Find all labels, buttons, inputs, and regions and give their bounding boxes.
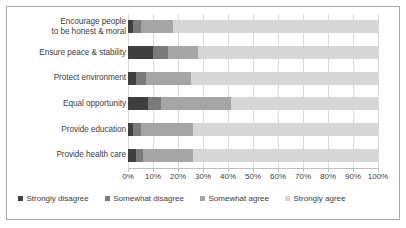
bar-segment	[136, 72, 146, 85]
legend-item: Somewhat disagree	[105, 194, 184, 203]
y-axis-label: Equal opportunity	[8, 99, 126, 109]
y-axis-label: Provide health care	[8, 150, 126, 160]
bar-segment	[193, 149, 378, 162]
gridline-0	[128, 14, 129, 168]
chart-container: Encourage peopleto be honest & moralEnsu…	[0, 0, 406, 228]
bar-segment	[193, 123, 378, 136]
gridline-50	[253, 14, 254, 168]
bar-segment	[141, 20, 174, 33]
y-axis-label: Protect environment	[8, 73, 126, 83]
bar-segment	[128, 46, 153, 59]
y-axis-label: Ensure peace & stability	[8, 48, 126, 58]
gridline-80	[328, 14, 329, 168]
x-tick-label-10: 10%	[145, 172, 161, 181]
x-tick-label-50: 50%	[245, 172, 261, 181]
bar-segment	[146, 72, 191, 85]
legend-item: Somewhat agree	[200, 194, 269, 203]
bar-segment	[136, 149, 144, 162]
bar-row	[128, 72, 378, 85]
y-axis-category-labels: Encourage peopleto be honest & moralEnsu…	[6, 14, 126, 168]
bar-segment	[198, 46, 378, 59]
legend-swatch-icon	[285, 196, 290, 201]
legend-item: Strongly disagree	[18, 194, 89, 203]
plot-area	[128, 14, 378, 168]
gridline-40	[228, 14, 229, 168]
bar-segment	[143, 149, 193, 162]
gridline-60	[278, 14, 279, 168]
x-tick-label-40: 40%	[220, 172, 236, 181]
gridline-10	[153, 14, 154, 168]
bar-segment	[141, 123, 194, 136]
legend-label: Somewhat agree	[208, 194, 268, 203]
x-tick-label-90: 90%	[345, 172, 361, 181]
x-tick-label-100: 100%	[368, 172, 388, 181]
bar-row	[128, 20, 378, 33]
gridline-70	[303, 14, 304, 168]
x-tick-label-30: 30%	[195, 172, 211, 181]
y-axis-label: Provide education	[8, 125, 126, 135]
gridline-20	[178, 14, 179, 168]
bar-row	[128, 97, 378, 110]
bar-segment	[133, 20, 141, 33]
legend-swatch-icon	[105, 196, 110, 201]
bar-segment	[161, 97, 231, 110]
x-tick-label-80: 80%	[320, 172, 336, 181]
bar-segment	[168, 46, 198, 59]
bar-row	[128, 149, 378, 162]
chart-legend: Strongly disagreeSomewhat disagreeSomewh…	[18, 191, 388, 205]
gridline-30	[203, 14, 204, 168]
gridline-90	[353, 14, 354, 168]
bar-segment	[128, 149, 136, 162]
x-tick-label-20: 20%	[170, 172, 186, 181]
bar-segment	[173, 20, 378, 33]
legend-swatch-icon	[18, 196, 23, 201]
legend-label: Strongly disagree	[27, 194, 89, 203]
legend-swatch-icon	[200, 196, 205, 201]
x-tick-label-70: 70%	[295, 172, 311, 181]
bar-segment	[231, 97, 379, 110]
x-axis-tick-labels: 0%10%20%30%40%50%60%70%80%90%100%	[0, 172, 406, 186]
bar-segment	[128, 72, 136, 85]
x-tick-label-60: 60%	[270, 172, 286, 181]
bar-segment	[133, 123, 141, 136]
y-axis-label: Encourage peopleto be honest & moral	[8, 17, 126, 37]
bar-row	[128, 123, 378, 136]
bar-segment	[148, 97, 161, 110]
legend-label: Somewhat disagree	[113, 194, 184, 203]
bar-segment	[128, 97, 148, 110]
legend-label: Strongly agree	[293, 194, 345, 203]
bar-segment	[191, 72, 379, 85]
legend-item: Strongly agree	[285, 194, 346, 203]
bar-segment	[153, 46, 168, 59]
x-tick-label-0: 0%	[122, 172, 134, 181]
gridline-100	[378, 14, 379, 168]
bar-row	[128, 46, 378, 59]
